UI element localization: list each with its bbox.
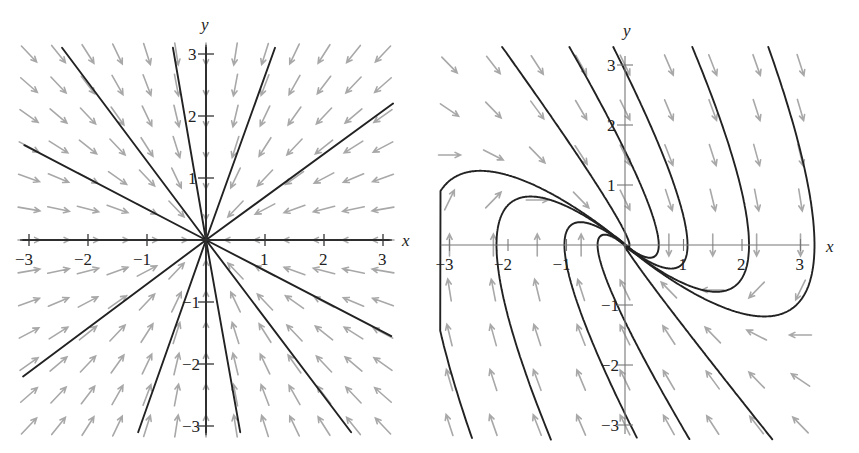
field-arrow-icon bbox=[484, 150, 504, 160]
x-tick-label: −2 bbox=[74, 250, 92, 269]
field-arrow-icon bbox=[747, 330, 767, 340]
field-arrow-icon bbox=[705, 327, 720, 343]
field-arrow-icon bbox=[375, 388, 392, 402]
field-arrow-icon bbox=[112, 385, 123, 404]
field-arrow-icon bbox=[174, 353, 180, 374]
field-arrow-icon bbox=[257, 170, 272, 186]
field-arrow-icon bbox=[486, 192, 501, 208]
field-arrow-icon bbox=[577, 415, 586, 435]
field-arrow-icon bbox=[48, 267, 70, 273]
field-arrow-icon bbox=[232, 74, 238, 96]
field-arrow-icon bbox=[346, 387, 361, 403]
field-arrow-icon bbox=[533, 279, 539, 300]
trajectory bbox=[206, 240, 391, 336]
field-arrow-icon bbox=[81, 76, 94, 94]
field-arrow-icon bbox=[113, 416, 122, 436]
field-arrow-icon bbox=[347, 45, 361, 62]
field-arrow-icon bbox=[141, 324, 153, 343]
y-tick-label: −2 bbox=[182, 355, 200, 374]
field-arrow-icon bbox=[755, 189, 761, 211]
field-arrow-icon bbox=[533, 370, 541, 391]
field-arrow-icon bbox=[172, 292, 181, 312]
x-tick-label: −1 bbox=[553, 255, 571, 274]
field-arrow-icon bbox=[142, 354, 151, 374]
field-arrow-icon bbox=[753, 100, 761, 121]
phase-portraits: −3−2−1123−3−2−1123 x y −3−2−1123−3−2−112… bbox=[0, 0, 859, 453]
field-arrow-icon bbox=[749, 282, 764, 298]
field-arrow-icon bbox=[49, 141, 68, 153]
field-arrow-icon bbox=[111, 355, 124, 373]
right-y-axis-label: y bbox=[621, 21, 631, 40]
field-arrow-icon bbox=[113, 44, 122, 64]
field-arrow-icon bbox=[289, 385, 300, 404]
field-arrow-icon bbox=[144, 416, 152, 437]
right-x-axis-label: x bbox=[825, 237, 834, 256]
right-axes: −3−2−1123−3−2−1123 bbox=[436, 56, 810, 435]
field-arrow-icon bbox=[255, 204, 274, 214]
field-arrow-icon bbox=[20, 110, 38, 123]
field-arrow-icon bbox=[665, 55, 674, 75]
field-arrow-icon bbox=[284, 205, 305, 213]
field-arrow-icon bbox=[709, 145, 717, 166]
field-arrow-icon bbox=[80, 108, 95, 124]
field-arrow-icon bbox=[531, 56, 543, 74]
field-arrow-icon bbox=[112, 75, 123, 94]
y-tick-label: 3 bbox=[188, 45, 197, 64]
field-arrow-icon bbox=[797, 99, 804, 120]
field-arrow-icon bbox=[533, 415, 541, 435]
field-arrow-icon bbox=[577, 325, 585, 345]
field-arrow-icon bbox=[287, 325, 302, 341]
field-arrow-icon bbox=[797, 55, 805, 76]
x-tick-label: 2 bbox=[319, 250, 328, 269]
x-tick-label: −1 bbox=[133, 250, 151, 269]
field-arrow-icon bbox=[790, 332, 812, 337]
field-arrow-icon bbox=[315, 140, 332, 154]
field-arrow-icon bbox=[372, 207, 394, 212]
x-tick-label: 3 bbox=[378, 250, 387, 269]
y-tick-label: 2 bbox=[607, 116, 616, 135]
field-arrow-icon bbox=[663, 326, 675, 344]
field-arrow-icon bbox=[232, 105, 238, 126]
field-arrow-icon bbox=[52, 417, 66, 434]
field-arrow-icon bbox=[21, 46, 36, 62]
left-axes: −3−2−1123−3−2−1123 bbox=[15, 45, 392, 436]
y-tick-label: −3 bbox=[601, 416, 619, 435]
x-tick-label: 1 bbox=[679, 255, 688, 274]
field-arrow-icon bbox=[440, 104, 458, 116]
field-arrow-icon bbox=[144, 44, 152, 65]
field-arrow-icon bbox=[289, 75, 300, 94]
field-arrow-icon bbox=[486, 102, 501, 118]
x-tick-label: −3 bbox=[15, 250, 33, 269]
field-arrow-icon bbox=[110, 325, 125, 341]
field-arrow-icon bbox=[175, 415, 180, 437]
field-arrow-icon bbox=[318, 417, 330, 436]
x-tick-label: −3 bbox=[436, 255, 454, 274]
field-arrow-icon bbox=[373, 174, 394, 182]
x-tick-label: 2 bbox=[737, 255, 746, 274]
field-arrow-icon bbox=[373, 142, 392, 152]
field-arrow-icon bbox=[141, 138, 153, 157]
field-arrow-icon bbox=[80, 356, 95, 372]
field-arrow-icon bbox=[749, 372, 764, 388]
field-arrow-icon bbox=[48, 174, 68, 183]
right-phase-portrait: −3−2−1123−3−2−1123 x y bbox=[436, 21, 835, 440]
field-arrow-icon bbox=[173, 323, 181, 344]
field-arrow-icon bbox=[315, 326, 332, 340]
field-arrow-icon bbox=[707, 416, 719, 434]
field-arrow-icon bbox=[345, 109, 362, 123]
field-arrow-icon bbox=[284, 267, 305, 275]
field-arrow-icon bbox=[374, 358, 392, 371]
field-arrow-icon bbox=[665, 100, 674, 120]
field-arrow-icon bbox=[665, 190, 673, 211]
field-arrow-icon bbox=[50, 109, 67, 123]
field-arrow-icon bbox=[664, 415, 675, 434]
field-arrow-icon bbox=[489, 324, 496, 345]
field-arrow-icon bbox=[288, 107, 301, 125]
field-arrow-icon bbox=[19, 174, 40, 182]
x-tick-label: −2 bbox=[494, 255, 512, 274]
field-arrow-icon bbox=[375, 78, 392, 92]
field-arrow-icon bbox=[79, 140, 96, 154]
trajectory bbox=[24, 145, 206, 240]
field-arrow-icon bbox=[347, 417, 361, 434]
field-arrow-icon bbox=[346, 77, 361, 93]
